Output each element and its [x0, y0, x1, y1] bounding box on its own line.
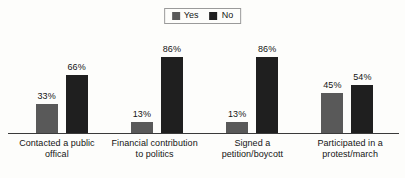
bar-group-signed-a-petition-boycott: 13% 86%: [205, 30, 300, 133]
legend-label-no: No: [222, 11, 234, 20]
legend-label-yes: Yes: [184, 11, 199, 20]
x-tick-label-line2: offical: [45, 149, 69, 159]
bar-slot: 13%: [131, 30, 153, 133]
legend-swatch-no: [210, 12, 218, 20]
x-tick-label-line1: Contacted a public: [19, 138, 94, 148]
plot-area: 33% 66% 13% 86% 13% 86%: [14, 30, 395, 133]
bar-chart: Yes No 33% 66% 13% 86%: [0, 0, 405, 178]
bar-slot: 45%: [321, 30, 343, 133]
bar-yes[interactable]: [36, 104, 58, 133]
bar-slot: 66%: [66, 30, 88, 133]
bar-value-label: 86%: [258, 45, 276, 54]
legend-item-yes[interactable]: Yes: [172, 11, 199, 20]
bar-yes[interactable]: [131, 122, 153, 133]
x-tick-label-line1: Participated in a: [317, 138, 382, 148]
bar-group-financial-contribution-to-politics: 13% 86%: [109, 30, 204, 133]
x-tick-label-line2: protest/march: [322, 149, 378, 159]
bar-no[interactable]: [66, 75, 88, 133]
x-tick-label: Signed a petition/boycott: [204, 138, 302, 160]
bar-value-label: 54%: [353, 73, 371, 82]
legend-item-no[interactable]: No: [210, 11, 234, 20]
x-tick-label-line2: petition/boycott: [222, 149, 283, 159]
bar-slot: 13%: [226, 30, 248, 133]
x-tick-label: Contacted a public offical: [8, 138, 106, 160]
bar-yes[interactable]: [321, 93, 343, 133]
x-axis-baseline: [8, 133, 399, 134]
x-tick-label-line1: Signed a: [234, 138, 270, 148]
bar-no[interactable]: [161, 57, 183, 133]
x-tick-label: Financial contribution to politics: [106, 138, 204, 160]
bar-slot: 86%: [161, 30, 183, 133]
bar-group-contacted-a-public-offical: 33% 66%: [14, 30, 109, 133]
bar-no[interactable]: [351, 85, 373, 133]
x-tick-label-line1: Financial contribution: [112, 138, 198, 148]
bar-value-label: 13%: [228, 110, 246, 119]
bar-group-participated-in-a-protest-march: 45% 54%: [300, 30, 395, 133]
bar-value-label: 66%: [67, 63, 85, 72]
bar-slot: 86%: [256, 30, 278, 133]
bar-no[interactable]: [256, 57, 278, 133]
chart-legend: Yes No: [164, 8, 242, 24]
bar-value-label: 33%: [37, 92, 55, 101]
bar-value-label: 45%: [323, 81, 341, 90]
bar-value-label: 13%: [133, 110, 151, 119]
bar-slot: 54%: [351, 30, 373, 133]
x-tick-label-line2: to politics: [136, 149, 174, 159]
x-axis-tick-labels: Contacted a public offical Financial con…: [8, 138, 399, 160]
bar-value-label: 86%: [163, 45, 181, 54]
x-tick-label: Participated in a protest/march: [301, 138, 399, 160]
bar-slot: 33%: [36, 30, 58, 133]
legend-swatch-yes: [172, 12, 180, 20]
bar-yes[interactable]: [226, 122, 248, 133]
